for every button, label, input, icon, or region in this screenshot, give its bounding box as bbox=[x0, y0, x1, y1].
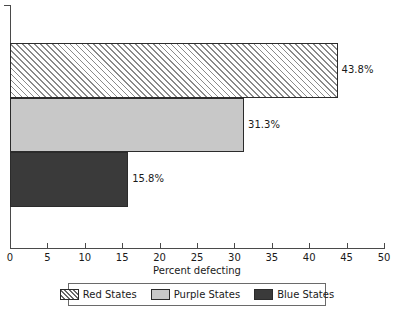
legend-swatch-icon bbox=[254, 289, 273, 300]
x-axis-tick-label: 45 bbox=[332, 252, 362, 264]
x-axis-tick-label: 0 bbox=[0, 252, 25, 264]
x-axis-tick bbox=[384, 243, 385, 249]
x-axis-tick bbox=[47, 243, 48, 249]
bar-value-label: 15.8% bbox=[132, 173, 164, 185]
x-axis-tick-label: 40 bbox=[294, 252, 324, 264]
x-axis-tick bbox=[160, 243, 161, 249]
bar-value-label: 43.8% bbox=[342, 64, 374, 76]
bar-blue-states bbox=[10, 152, 128, 207]
legend-item-red-states: Red States bbox=[60, 289, 137, 301]
legend-swatch-icon bbox=[60, 289, 79, 300]
x-axis-tick-label: 15 bbox=[107, 252, 137, 264]
x-axis-tick bbox=[309, 243, 310, 249]
x-axis-tick-label: 5 bbox=[32, 252, 62, 264]
x-axis-tick bbox=[234, 243, 235, 249]
plot-area: 43.8%31.3%15.8% 05101520253035404550 bbox=[0, 0, 394, 250]
x-axis-tick bbox=[197, 243, 198, 249]
x-axis-tick bbox=[122, 243, 123, 249]
legend-label: Red States bbox=[83, 289, 137, 301]
legend-swatch-icon bbox=[151, 289, 170, 300]
x-axis-tick-label: 35 bbox=[257, 252, 287, 264]
x-axis-title: Percent defecting bbox=[0, 265, 394, 277]
x-axis-tick-label: 25 bbox=[182, 252, 212, 264]
bar-chart: 43.8%31.3%15.8% 05101520253035404550 Per… bbox=[0, 0, 394, 312]
x-axis-tick bbox=[272, 243, 273, 249]
legend-item-blue-states: Blue States bbox=[254, 289, 334, 301]
x-axis-tick-label: 20 bbox=[145, 252, 175, 264]
x-axis-tick-label: 30 bbox=[219, 252, 249, 264]
x-axis-tick bbox=[347, 243, 348, 249]
x-axis-tick bbox=[10, 243, 11, 249]
legend-item-purple-states: Purple States bbox=[151, 289, 240, 301]
chart-legend: Red StatesPurple StatesBlue States bbox=[68, 283, 326, 306]
legend-label: Purple States bbox=[174, 289, 240, 301]
x-axis-tick-label: 50 bbox=[369, 252, 394, 264]
bar-value-label: 31.3% bbox=[248, 119, 280, 131]
bar-red-states bbox=[10, 43, 338, 98]
x-axis-tick bbox=[85, 243, 86, 249]
legend-label: Blue States bbox=[277, 289, 334, 301]
x-axis-tick-label: 10 bbox=[70, 252, 100, 264]
bar-purple-states bbox=[10, 98, 244, 153]
